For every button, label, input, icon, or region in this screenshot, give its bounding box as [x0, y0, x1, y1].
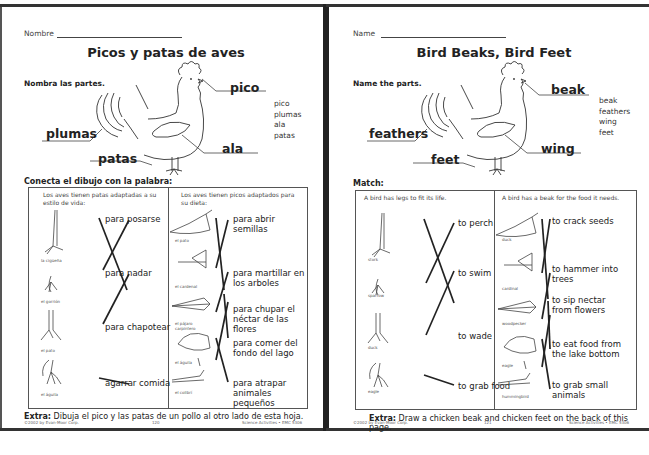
label-feathers: feathers	[369, 126, 428, 141]
bird-caption: el pato	[41, 348, 55, 353]
bird-caption: la cigüeña	[41, 258, 62, 263]
bird-caption: stork	[368, 257, 378, 262]
beaks-answer: to crack seeds	[552, 216, 636, 226]
beaks-answer: to eat food from the lake bottom	[552, 339, 636, 359]
bird-caption: cardinal	[502, 286, 518, 291]
footer-copyright: ©2002 by Evan-Moor Corp.	[24, 420, 79, 425]
legs-answer: to wade	[458, 331, 492, 341]
footer-series: Science Activities • EMC 5306	[242, 420, 302, 425]
match-heading: Match:	[353, 179, 384, 188]
bird-caption: sparrow	[368, 293, 384, 298]
label-wing: ala	[222, 141, 243, 156]
label-wing: wing	[541, 141, 575, 156]
word-bank: pico plumas ala patas	[274, 99, 301, 141]
bird-caption: el pato	[175, 238, 189, 243]
word-bank-item: wing	[599, 117, 630, 128]
label-feet: feet	[431, 152, 459, 167]
footer-page-number: 121	[484, 420, 492, 425]
legs-answer: para nadar	[105, 268, 152, 278]
label-beak: pico	[230, 80, 259, 95]
legs-answer: agarrar comida	[105, 378, 170, 388]
word-bank-item: beak	[599, 96, 630, 107]
worksheet-page-english: Name Bird Beaks, Bird Feet Name the part…	[326, 7, 649, 428]
word-bank-item: feathers	[599, 107, 630, 118]
footer-series: Science Activities • EMC 5306	[569, 420, 629, 425]
bird-caption: hummingbird	[502, 394, 529, 399]
footer-copyright: ©2002 by Evan-Moor Corp.	[353, 420, 408, 425]
word-bank-item: ala	[274, 120, 301, 131]
bird-caption: duck	[502, 237, 512, 242]
beaks-answer: para martillar en los arboles	[233, 268, 307, 288]
bird-caption: el águila	[175, 360, 192, 365]
beaks-answer: to sip nectar from flowers	[552, 295, 624, 315]
label-feathers: plumas	[46, 126, 97, 141]
bird-caption: el águila	[41, 392, 58, 397]
bird-caption: eagle	[502, 363, 513, 368]
beaks-answer: to hammer into trees	[552, 264, 638, 284]
bird-caption: el gorrión	[41, 299, 60, 304]
worksheet-page-spanish: Nombre Picos y patas de aves Nombra las …	[0, 7, 323, 428]
match-exercise-box: A bird has legs to fit its life. stork s…	[355, 190, 637, 410]
beaks-answer: para comer del fondo del lago	[233, 338, 305, 358]
bird-caption: duck	[368, 345, 378, 350]
word-bank-item: feet	[599, 128, 630, 139]
bird-caption: el pájaro carpintero	[175, 321, 205, 331]
bird-caption: el colibrí	[175, 390, 192, 395]
footer-page-number: 120	[152, 420, 160, 425]
match-heading: Conecta el dibujo con la palabra:	[24, 177, 172, 186]
label-feet: patas	[98, 151, 137, 166]
word-bank-item: pico	[274, 99, 301, 110]
beaks-answer: para abrir semillas	[233, 214, 309, 234]
beaks-answer: para chupar el néctar de las flores	[233, 304, 309, 334]
bird-caption: el cardenal	[175, 284, 197, 289]
match-exercise-box: Los aves tienen patas adaptadas a su est…	[28, 187, 308, 409]
bird-caption: woodpecker	[502, 321, 526, 326]
legs-answer: to perch	[458, 218, 493, 228]
word-bank: beak feathers wing feet	[599, 96, 630, 138]
legs-answer: para chapotear	[105, 322, 170, 332]
label-beak: beak	[551, 82, 585, 97]
word-bank-item: plumas	[274, 110, 301, 121]
beaks-answer: to grab small animals	[552, 380, 616, 400]
bird-caption: eagle	[368, 389, 379, 394]
legs-answer: to swim	[458, 268, 491, 278]
word-bank-item: patas	[274, 131, 301, 142]
legs-answer: para posarse	[105, 214, 160, 224]
beaks-answer: para atrapar animales pequeños	[233, 378, 309, 408]
